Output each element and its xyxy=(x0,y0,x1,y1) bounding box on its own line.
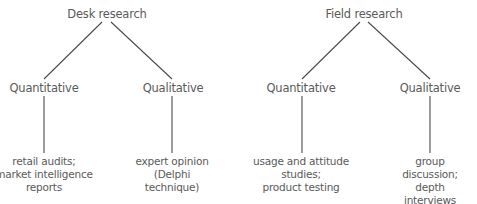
field-quantitative-example: usage and attitude studies; product test… xyxy=(253,155,349,194)
field-to-quant-line xyxy=(302,22,360,79)
desk-research-root: Desk research xyxy=(67,7,146,21)
desk-to-quant-line xyxy=(44,22,102,79)
desk-qualitative-example: expert opinion (Delphi technique) xyxy=(135,155,208,194)
desk-quantitative-example: retail audits; market intelligence repor… xyxy=(0,155,93,194)
field-to-qual-line xyxy=(368,22,430,79)
desk-qualitative-node: Qualitative xyxy=(143,81,204,95)
field-quantitative-node: Quantitative xyxy=(266,81,335,95)
field-research-root: Field research xyxy=(325,7,402,21)
field-qualitative-example: group discussion; depth interviews xyxy=(402,155,458,204)
desk-to-qual-line xyxy=(111,22,172,79)
desk-quantitative-node: Quantitative xyxy=(9,81,78,95)
field-qualitative-node: Qualitative xyxy=(400,81,461,95)
